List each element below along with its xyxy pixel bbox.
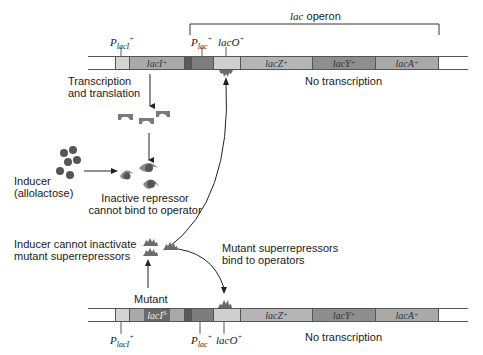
p-laci-label-top: PlacI+ — [110, 35, 134, 51]
laco-label-top: lacO+ — [218, 35, 244, 48]
status-top: No transcription — [305, 75, 382, 87]
lacz-gene: lacZ+ — [240, 309, 312, 321]
p-lac-label-top: Plac+ — [191, 35, 212, 51]
laci-gene: lacI+ — [129, 57, 184, 69]
inactive-repressors — [120, 163, 159, 189]
lacy-gene: lacY+ — [312, 57, 375, 69]
lacy-gene: lacY+ — [312, 309, 375, 321]
cannot-inactivate-label: Inducer cannot inactivate mutant superre… — [14, 238, 136, 262]
laca-gene: lacA+ — [375, 57, 439, 69]
laca-gene: lacA+ — [375, 309, 439, 321]
laci-s-gene: lacIS — [129, 309, 184, 321]
operator-bound-repressor-top — [219, 70, 233, 77]
p-laci-segment — [115, 309, 129, 321]
active-repressors — [118, 111, 170, 124]
p-lac-segment — [191, 57, 213, 69]
bind-operators-label: Mutant superrepressors bind to operators — [222, 242, 338, 266]
p-laci-label-bottom: PlacI+ — [110, 333, 134, 349]
operon-bracket — [190, 24, 439, 35]
superrepressors — [143, 238, 178, 256]
operon-label: lac operon — [290, 10, 341, 22]
spacer-segment — [184, 57, 191, 69]
curve-to-bottom-operator — [168, 248, 224, 288]
p-lac-label-bottom: Plac+ — [191, 333, 212, 349]
laco-segment — [213, 309, 240, 321]
laco-label-bottom: lacO+ — [216, 333, 242, 346]
curve-to-top-operator — [168, 82, 227, 248]
mutant-label: Mutant — [134, 293, 168, 305]
laco-segment — [213, 57, 240, 69]
spacer-segment — [184, 309, 191, 321]
p-lac-segment — [191, 309, 213, 321]
inducer-label: Inducer (allolactose) — [14, 175, 73, 199]
dna-top: lacI+ lacZ+ lacY+ lacA+ — [88, 56, 468, 70]
status-bottom: No transcription — [305, 331, 382, 343]
inactive-repressor-label: Inactive repressor cannot bind to operat… — [86, 192, 204, 216]
p-laci-segment — [115, 57, 129, 69]
transcription-label: Transcription and translation — [68, 75, 140, 99]
dna-bottom: lacIS lacZ+ lacY+ lacA+ — [88, 308, 468, 322]
lacz-gene: lacZ+ — [240, 57, 312, 69]
